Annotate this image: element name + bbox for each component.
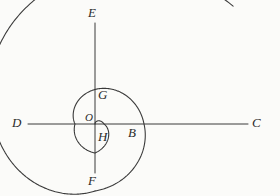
- label-point-C: C: [252, 116, 261, 129]
- axis-group: [28, 23, 248, 173]
- label-point-F: F: [88, 174, 96, 187]
- label-point-H: H: [98, 130, 107, 143]
- label-point-B: B: [128, 126, 136, 139]
- label-point-G: G: [98, 88, 107, 101]
- label-point-E: E: [88, 6, 96, 19]
- geometry-figure: E G O D B C H F: [0, 0, 280, 196]
- label-point-D: D: [12, 116, 21, 129]
- label-point-O: O: [85, 112, 93, 123]
- archimedean-spiral: [0, 0, 233, 194]
- figure-canvas: [0, 0, 280, 196]
